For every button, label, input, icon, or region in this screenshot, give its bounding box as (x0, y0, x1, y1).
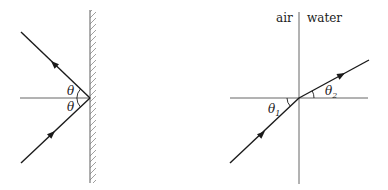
optics-diagram: θ θ air water θ1 θ2 (0, 0, 388, 190)
mirror-hatching (90, 10, 96, 183)
refracted-ray-arrow-icon (336, 70, 346, 79)
angle-label-theta2: θ2 (325, 84, 337, 100)
medium-label-water: water (307, 11, 342, 25)
angle-label-theta1: θ1 (268, 102, 280, 118)
angle-label-bottom: θ (67, 100, 75, 114)
incident-angle-arc (287, 98, 290, 106)
incident-ray (230, 98, 299, 163)
incident-ray-mirror (21, 98, 90, 163)
refraction-diagram: air water θ1 θ2 (230, 11, 369, 184)
medium-label-air: air (276, 11, 293, 25)
angle-label-top: θ (67, 84, 75, 98)
reflection-diagram: θ θ (20, 10, 96, 183)
refracted-angle-arc (312, 91, 314, 98)
